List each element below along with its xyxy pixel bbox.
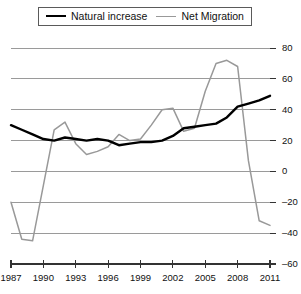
x-tick-label: 2011 — [260, 272, 280, 283]
x-tick-label: 1993 — [65, 272, 86, 283]
chart-container: Natural increase Net Migration 806040200… — [0, 0, 301, 294]
x-tick-label: 1996 — [98, 272, 119, 283]
x-tick-label: 1999 — [130, 272, 151, 283]
x-tick-label: 2008 — [227, 272, 248, 283]
x-axis-tick-labels: 198719901993199619992002200520082011 — [0, 0, 301, 294]
x-tick-label: 1990 — [33, 272, 54, 283]
x-tick-label: 2002 — [162, 272, 183, 283]
x-tick-label: 2005 — [195, 272, 216, 283]
x-tick-label: 1987 — [0, 272, 21, 283]
